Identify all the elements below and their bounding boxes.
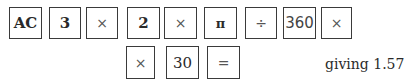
key-2[interactable]: 2	[127, 7, 160, 39]
key-360[interactable]: 360	[283, 7, 316, 39]
key-ac[interactable]: AC	[9, 7, 42, 39]
equals-icon[interactable]: =	[207, 46, 240, 79]
result-caption: giving 1.57	[325, 56, 404, 72]
divide-icon[interactable]: ÷	[245, 7, 277, 39]
key-30[interactable]: 30	[166, 46, 199, 79]
multiply-icon[interactable]: ×	[321, 7, 352, 39]
multiply-icon[interactable]: ×	[164, 7, 197, 39]
pi-icon[interactable]: π	[204, 7, 237, 39]
key-3[interactable]: 3	[49, 7, 81, 39]
multiply-icon[interactable]: ×	[126, 46, 155, 79]
multiply-icon[interactable]: ×	[86, 7, 118, 39]
